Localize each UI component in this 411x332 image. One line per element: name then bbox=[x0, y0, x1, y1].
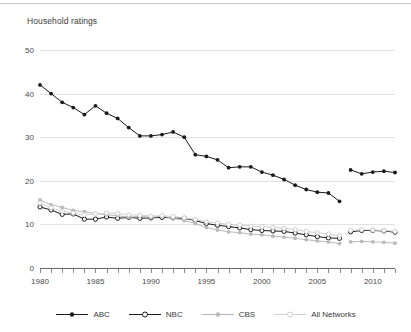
data-point bbox=[127, 126, 131, 130]
x-axis-tick bbox=[62, 269, 63, 273]
data-point bbox=[393, 229, 397, 233]
x-axis-tick bbox=[284, 269, 285, 273]
data-point bbox=[127, 213, 131, 217]
data-point bbox=[326, 232, 330, 236]
legend-label: CBS bbox=[239, 310, 255, 319]
x-axis-tick bbox=[373, 269, 374, 273]
data-point bbox=[216, 228, 220, 232]
data-point bbox=[260, 224, 264, 228]
x-axis-tick bbox=[73, 269, 74, 273]
data-point bbox=[282, 235, 286, 239]
x-axis-labels: 1980198519901995200020052010 bbox=[40, 277, 395, 289]
x-axis-tick bbox=[107, 269, 108, 273]
data-point bbox=[182, 216, 186, 220]
y-axis-labels: 01020304050 bbox=[0, 50, 34, 268]
data-point bbox=[337, 234, 341, 238]
data-point bbox=[93, 217, 97, 221]
data-point bbox=[104, 211, 108, 215]
legend-label: NBC bbox=[166, 310, 183, 319]
data-point bbox=[160, 214, 164, 218]
y-axis-tick-label: 40 bbox=[25, 89, 34, 98]
x-axis-tick bbox=[362, 269, 363, 273]
data-point bbox=[371, 170, 375, 174]
data-point bbox=[382, 228, 386, 232]
page-title: Household ratings bbox=[27, 16, 97, 26]
x-axis-tick bbox=[340, 269, 341, 273]
x-axis-tick bbox=[206, 269, 207, 273]
x-axis-tick bbox=[51, 269, 52, 273]
data-point bbox=[82, 113, 86, 117]
data-point bbox=[315, 231, 319, 235]
data-point bbox=[382, 240, 386, 244]
x-axis-tick bbox=[95, 269, 96, 273]
data-point bbox=[338, 242, 342, 246]
x-axis-tick bbox=[251, 269, 252, 273]
data-point bbox=[327, 240, 331, 244]
data-point bbox=[49, 206, 53, 210]
x-axis-tick bbox=[395, 269, 396, 273]
x-axis-tick-label: 1980 bbox=[31, 277, 49, 286]
data-point bbox=[360, 172, 364, 176]
series-layer bbox=[40, 50, 395, 268]
data-point bbox=[293, 236, 297, 240]
data-point bbox=[82, 217, 86, 221]
data-point bbox=[304, 238, 308, 242]
x-axis-tick bbox=[184, 269, 185, 273]
data-point bbox=[204, 220, 208, 224]
data-point bbox=[315, 239, 319, 243]
x-axis-tick bbox=[84, 269, 85, 273]
x-axis-tick-label: 2010 bbox=[364, 277, 382, 286]
data-point bbox=[216, 158, 220, 162]
data-point bbox=[238, 231, 242, 235]
legend-item-all-networks[interactable]: All Networks bbox=[273, 310, 355, 319]
x-axis-tick bbox=[162, 269, 163, 273]
data-point bbox=[116, 211, 120, 215]
data-point bbox=[38, 201, 42, 205]
data-point bbox=[205, 154, 209, 158]
y-axis-tick-label: 10 bbox=[25, 220, 34, 229]
legend-item-nbc[interactable]: NBC bbox=[128, 310, 183, 319]
y-axis-tick-label: 30 bbox=[25, 133, 34, 142]
data-point bbox=[349, 168, 353, 172]
x-axis-tick bbox=[384, 269, 385, 273]
data-point bbox=[227, 166, 231, 170]
data-point bbox=[260, 233, 264, 237]
data-point bbox=[138, 134, 142, 138]
x-axis-tick bbox=[240, 269, 241, 273]
data-point bbox=[215, 221, 219, 225]
data-point bbox=[71, 211, 75, 215]
x-axis-tick bbox=[129, 269, 130, 273]
x-axis-ticks bbox=[40, 269, 395, 274]
data-point bbox=[282, 226, 286, 230]
data-point bbox=[38, 83, 42, 87]
data-point bbox=[93, 212, 97, 216]
x-axis-tick bbox=[40, 269, 41, 273]
data-point bbox=[382, 169, 386, 173]
legend-item-cbs[interactable]: CBS bbox=[201, 310, 255, 319]
x-axis-tick bbox=[328, 269, 329, 273]
data-point bbox=[260, 170, 264, 174]
legend-item-abc[interactable]: ABC bbox=[55, 310, 109, 319]
x-axis-tick bbox=[351, 269, 352, 273]
data-point bbox=[282, 178, 286, 182]
y-axis-tick-label: 50 bbox=[25, 46, 34, 55]
legend-label: ABC bbox=[93, 310, 109, 319]
data-point bbox=[182, 135, 186, 139]
chart-root: Household ratings 01020304050 1980198519… bbox=[0, 0, 411, 332]
data-point bbox=[238, 223, 242, 227]
data-point bbox=[171, 214, 175, 218]
x-axis-tick bbox=[295, 269, 296, 273]
data-point bbox=[315, 190, 319, 194]
data-point bbox=[193, 218, 197, 222]
data-point bbox=[271, 225, 275, 229]
data-point bbox=[393, 241, 397, 245]
data-point bbox=[149, 214, 153, 218]
legend-swatch bbox=[55, 310, 89, 319]
data-point bbox=[227, 230, 231, 234]
data-point bbox=[94, 104, 98, 108]
x-axis-tick bbox=[262, 269, 263, 273]
data-point bbox=[193, 222, 197, 226]
x-axis-tick bbox=[306, 269, 307, 273]
top-divider bbox=[0, 3, 411, 4]
data-point bbox=[249, 165, 253, 169]
